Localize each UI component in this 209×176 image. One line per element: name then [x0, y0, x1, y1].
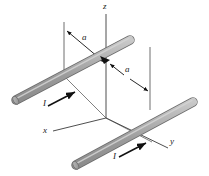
current-label-upper: I: [43, 99, 46, 108]
current-arrow-lower: [119, 143, 146, 157]
axis-label-x: x: [43, 126, 47, 135]
axis-label-y: y: [170, 137, 174, 146]
figure-canvas: z x y a a I I: [0, 0, 209, 176]
dimension-label-a-left: a: [82, 33, 87, 42]
lower-rod: [72, 100, 193, 170]
axis-x: [53, 118, 106, 131]
dimension-label-a-right: a: [125, 65, 130, 74]
axis-label-z: z: [103, 2, 107, 11]
diagram-svg: [0, 0, 209, 176]
current-arrow-upper: [48, 92, 75, 106]
current-label-lower: I: [113, 152, 116, 161]
upper-rod: [12, 38, 130, 105]
